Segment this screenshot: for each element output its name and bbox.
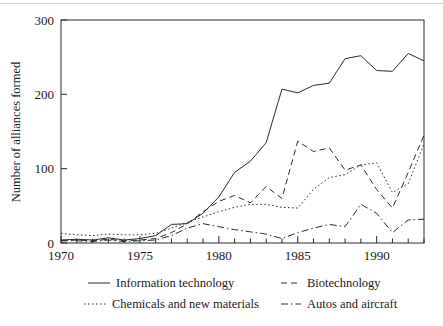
x-tick-label: 1970	[48, 248, 74, 263]
legend-label: Autos and aircraft	[307, 297, 398, 311]
legend-entry[interactable]: Biotechnology	[281, 276, 381, 290]
y-axis-title: Number of alliances formed	[9, 61, 23, 202]
x-tick-label: 1985	[285, 248, 311, 263]
legend-label: Biotechnology	[307, 276, 381, 290]
y-axis-ticks	[61, 20, 67, 243]
x-axis-tick-labels: 19701975198019851990	[48, 248, 390, 263]
y-tick-label: 100	[35, 161, 55, 176]
y-axis-tick-labels: 0100200300	[35, 13, 55, 251]
legend-entry[interactable]: Chemicals and new materials	[84, 297, 259, 311]
plot-frame	[61, 20, 424, 243]
alliances-line-chart: 0100200300 19701975198019851990 Number o…	[0, 0, 443, 326]
series-line-2	[61, 144, 424, 235]
x-tick-label: 1975	[127, 248, 153, 263]
series-group	[61, 53, 424, 241]
y-tick-label: 200	[35, 87, 55, 102]
legend-entry[interactable]: Autos and aircraft	[281, 297, 398, 311]
chart-legend: Information technologyBiotechnologyChemi…	[84, 276, 398, 311]
series-line-1	[61, 135, 424, 241]
legend-entry[interactable]: Information technology	[88, 276, 235, 290]
series-line-3	[61, 204, 424, 241]
y-tick-label: 300	[35, 13, 55, 28]
legend-label: Chemicals and new materials	[112, 297, 259, 311]
legend-label: Information technology	[116, 276, 235, 290]
x-tick-label: 1990	[364, 248, 390, 263]
x-tick-label: 1980	[206, 248, 232, 263]
series-line-0	[61, 53, 424, 240]
